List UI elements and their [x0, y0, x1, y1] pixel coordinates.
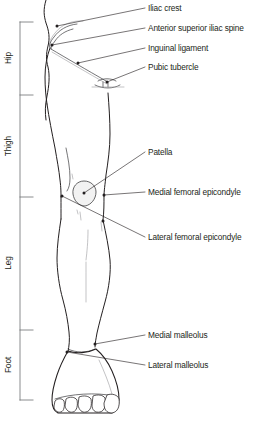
marker-dot-patella [83, 192, 86, 195]
label-patella: Patella [148, 147, 173, 157]
lower-limb-illustration: Hip Thigh Leg Foot [0, 0, 261, 423]
label-lateral-malleolus: Lateral malleolus [148, 360, 208, 370]
leader-line-iliac-crest [57, 8, 145, 26]
region-bracket: Hip Thigh Leg Foot [3, 22, 33, 400]
toe-5 [54, 399, 64, 412]
label-lateral-femoral-epicondyle: Lateral femoral epicondyle [148, 232, 242, 242]
leader-line-asis [52, 28, 145, 45]
vastus-medialis-line [66, 148, 70, 191]
toe-3 [78, 396, 91, 412]
marker-dot-medial-malleolus [94, 343, 97, 346]
leader-line-medial-femoral-epicondyle [104, 192, 145, 195]
toe-1-hallux [104, 394, 119, 413]
tibial-tuberosity-hint [101, 222, 102, 231]
region-label-hip: Hip [3, 51, 13, 64]
region-label-foot: Foot [3, 356, 13, 373]
marker-dot-lateral-epicondyle-lower [102, 220, 105, 223]
iliac-crest-arc-inner [51, 29, 73, 49]
label-anterior-superior-iliac-spine: Anterior superior iliac spine [148, 23, 244, 33]
marker-dot-inguinal-ligament [77, 62, 80, 65]
marker-dot-lateral-malleolus [66, 351, 69, 354]
label-medial-femoral-epicondyle: Medial femoral epicondyle [148, 187, 241, 197]
marker-dot-iliac-crest [56, 25, 59, 28]
leader-line-pubic-tubercle [107, 67, 145, 82]
leader-line-patella [84, 152, 145, 193]
label-pubic-tubercle: Pubic tubercle [148, 62, 199, 72]
patellar-ligament-hint [80, 212, 81, 220]
anatomy-figure: Hip Thigh Leg Foot [0, 0, 261, 423]
iliac-crest-arc-outer [50, 21, 83, 47]
leader-line-inguinal-ligament [78, 48, 145, 63]
knee-shade-line [77, 210, 78, 214]
marker-dot-lateral-femoral-epicondyle [61, 195, 64, 198]
medial-thigh-contour [104, 93, 110, 196]
label-iliac-crest: Iliac crest [148, 3, 182, 13]
leader-line-medial-malleolus [95, 335, 145, 344]
callout-labels-group: Iliac crest Anterior superior iliac spin… [148, 3, 244, 370]
label-medial-malleolus: Medial malleolus [148, 330, 207, 340]
tibial-crest-line [86, 230, 88, 260]
leg-lateral-contour [57, 219, 69, 352]
inguinal-ligament-band [51, 49, 106, 81]
region-label-leg: Leg [3, 256, 13, 270]
leader-lines-group [51, 8, 146, 365]
inguinal-ligament-band-lower [52, 52, 107, 84]
label-inguinal-ligament: Inguinal ligament [148, 43, 209, 53]
region-label-thigh: Thigh [3, 135, 13, 156]
marker-dot-medial-femoral-epicondyle [103, 194, 106, 197]
thigh-shade-line [72, 174, 73, 179]
pubic-region [92, 79, 124, 88]
marker-dot-asis [51, 44, 54, 47]
toe-2 [92, 395, 105, 412]
leg-medial-contour [95, 220, 110, 347]
marker-dot-pubic-tubercle [106, 81, 109, 84]
lateral-thigh-contour [47, 104, 61, 197]
toe-4 [65, 397, 77, 412]
